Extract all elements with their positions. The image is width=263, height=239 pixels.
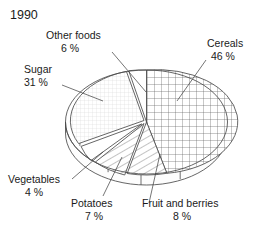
label-other-foods-name: Other foods (46, 29, 101, 41)
label-fruit-value: 8 % (173, 210, 191, 222)
label-fruit-name: Fruit and berries (142, 197, 218, 209)
label-sugar-value: 31 % (24, 76, 48, 88)
chart-title: 1990 (10, 8, 38, 22)
label-potatoes-value: 7 % (85, 210, 103, 222)
label-sugar-name: Sugar (24, 63, 53, 75)
pie-slices (70, 70, 237, 175)
label-cereals-name: Cereals (207, 37, 243, 49)
label-vegetables-value: 4 % (25, 186, 43, 198)
pie-chart-figure: 1990 (0, 0, 263, 239)
label-other-foods-value: 6 % (61, 42, 79, 54)
label-cereals-value: 46 % (211, 50, 235, 62)
label-vegetables-name: Vegetables (8, 173, 60, 185)
label-potatoes-name: Potatoes (71, 197, 112, 209)
